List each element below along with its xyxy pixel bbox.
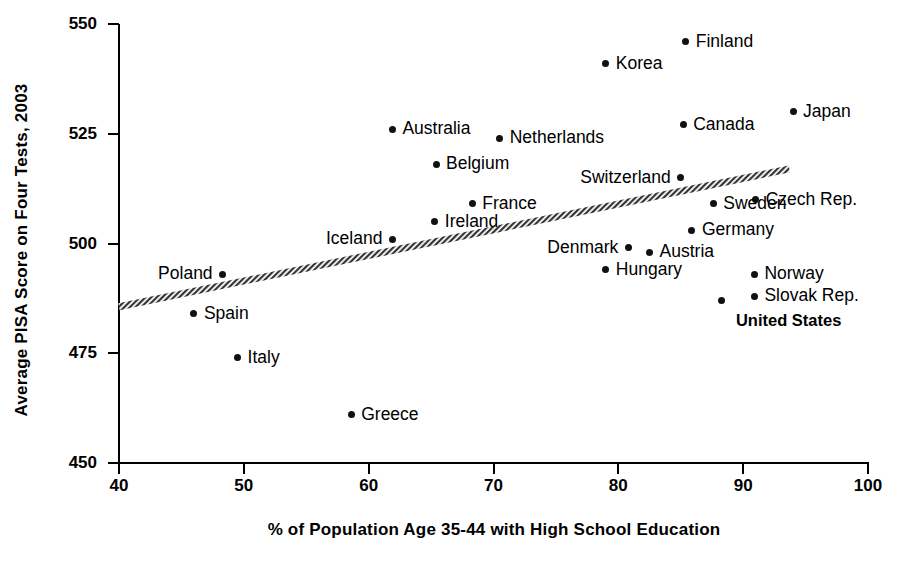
x-axis-tick [368,464,370,474]
data-point [219,271,226,278]
x-axis-tick [617,464,619,474]
x-axis-tick-label: 50 [214,476,274,496]
data-point [751,293,758,300]
x-axis-tick [243,464,245,474]
x-axis-tick-label: 40 [89,476,149,496]
data-point-label: Italy [248,349,280,367]
data-point-label: Belgium [446,156,509,174]
x-axis-tick-label: 70 [464,476,524,496]
x-axis-tick [493,464,495,474]
data-point-label: Sweden [723,195,786,213]
data-point-label: Iceland [326,230,382,248]
data-point-label: Canada [693,116,754,134]
x-axis-title: % of Population Age 35-44 with High Scho… [119,520,869,540]
data-point-label: Norway [764,265,823,283]
data-point-label: Japan [803,103,851,121]
plot-area: 450475500525550 405060708090100 FinlandK… [0,0,898,561]
data-point-label: Poland [158,265,213,283]
data-point [234,354,241,361]
data-point [496,135,503,142]
data-point-label: Netherlands [510,129,604,147]
x-axis-tick-label: 60 [339,476,399,496]
data-point-label: Hungary [616,261,682,279]
data-point-label: Denmark [547,239,618,257]
y-axis-tick [108,243,119,245]
data-point-label: Korea [616,55,663,73]
data-point [348,411,355,418]
data-point [625,244,632,251]
data-point [602,60,609,67]
data-point [790,108,797,115]
x-axis-tick [867,464,869,474]
y-axis-tick [108,352,119,354]
data-point-label: United States [736,311,841,328]
data-point [682,38,689,45]
data-point-label: Spain [204,305,249,323]
y-axis-tick [108,23,119,25]
y-axis-tick-label: 450 [35,453,97,473]
data-point [646,249,653,256]
data-point [389,126,396,133]
y-axis-title: Average PISA Score on Four Tests, 2003 [4,0,40,500]
data-point [680,121,687,128]
y-axis-tick-label: 525 [35,124,97,144]
data-point [710,200,717,207]
data-point [677,174,684,181]
data-point [718,297,725,304]
data-point-label: Greece [361,406,418,424]
y-axis-tick-label: 550 [35,14,97,34]
data-point [602,266,609,273]
x-axis-tick-label: 90 [713,476,773,496]
data-point [469,200,476,207]
data-point-label: Ireland [445,213,499,231]
x-axis-tick [742,464,744,474]
data-point-label: Australia [402,121,470,139]
x-axis-tick-label: 100 [838,476,898,496]
data-point [190,310,197,317]
data-point [433,161,440,168]
data-point-label: Switzerland [580,169,670,187]
scatter-chart: 450475500525550 405060708090100 FinlandK… [0,0,898,561]
data-point-label: Finland [696,33,753,51]
x-axis-tick-label: 80 [588,476,648,496]
y-axis-tick-label: 475 [35,343,97,363]
data-point [751,271,758,278]
data-point [431,218,438,225]
data-point-label: Slovak Rep. [764,287,858,305]
data-point [688,227,695,234]
data-point [389,236,396,243]
x-axis-tick [118,464,120,474]
y-axis-tick [108,133,119,135]
data-point-label: Germany [702,222,774,240]
y-axis-tick-label: 500 [35,234,97,254]
